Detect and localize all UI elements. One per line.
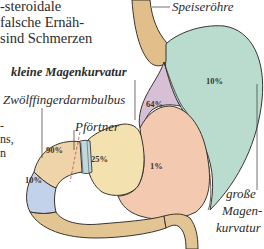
duodenal-bulb-percent: 90% [46, 145, 63, 155]
label-duodenal-bulb: Zwölffingerdarmbulbus [3, 92, 125, 108]
label-greater-curvature-1: große [226, 186, 256, 202]
stomach-ulcer-diagram: -steroidale falsche Ernäh- sind Schmerze… [0, 0, 264, 249]
label-esophagus: Speiseröhre [172, 0, 234, 15]
label-greater-curvature-2: Magen- [222, 203, 262, 219]
esophagus-shape [132, 0, 169, 66]
antrum-percent: 1% [150, 161, 163, 171]
label-lesser-curvature: kleine Magenkurvatur [11, 65, 127, 80]
label-greater-curvature-3: kurvatur [216, 220, 261, 236]
prepyloric-percent: 25% [91, 154, 108, 164]
fundus-percent: 10% [206, 76, 223, 86]
label-pylorus: Pförtner [75, 119, 119, 135]
duodenum-descending-percent: 10% [25, 175, 42, 185]
jejunum-tube [164, 214, 198, 249]
lesser-curvature-percent: 64% [146, 99, 163, 109]
